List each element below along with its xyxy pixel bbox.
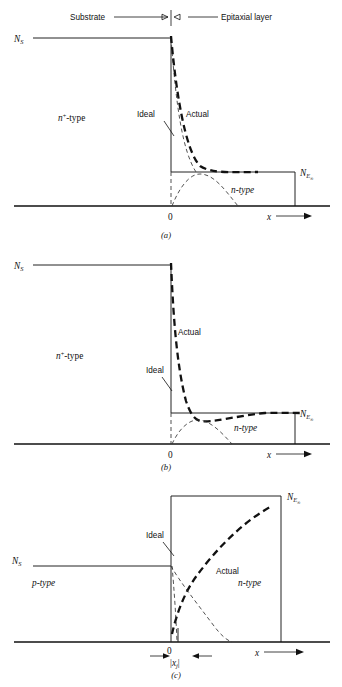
ideal-leader-c bbox=[163, 542, 174, 556]
actual-label-c: Actual bbox=[216, 567, 239, 576]
x-axis-arrow-c: x bbox=[254, 648, 304, 658]
panel-b-tag-row: (b) bbox=[0, 458, 342, 476]
junction-depth-label-c: |xj| bbox=[170, 658, 180, 669]
panel-a: Substrate Epitaxial layer NS bbox=[0, 0, 342, 243]
panel-b: NS n+-type n-type Actual Ideal bbox=[0, 243, 342, 476]
junction-depth-dimension-c: |xj| bbox=[150, 653, 212, 669]
ns-label-c: NS bbox=[11, 556, 22, 567]
ideal-profile-c bbox=[33, 496, 281, 642]
ideal-label-a: Ideal bbox=[137, 110, 155, 119]
origin-label-b: 0 bbox=[168, 450, 173, 460]
ideal-label-b: Ideal bbox=[146, 366, 164, 375]
region-substrate-label-c: p-type bbox=[31, 578, 55, 588]
ne-label-a: NE∞ bbox=[299, 168, 314, 181]
epitaxial-layer-label-a: Epitaxial layer bbox=[221, 13, 272, 22]
region-epi-label-a: n-type bbox=[231, 185, 254, 195]
substrate-label-a: Substrate bbox=[70, 13, 105, 22]
x-axis-arrow-a: x bbox=[266, 212, 312, 222]
svg-text:NS: NS bbox=[13, 34, 24, 45]
x-axis-label-a: x bbox=[266, 212, 272, 222]
actual-label-a: Actual bbox=[186, 110, 209, 119]
x-axis-label-b: x bbox=[266, 450, 272, 460]
panel-c-graphic: NS NE∞ p-type n-type Ideal Actual 0 bbox=[0, 476, 342, 681]
region-epi-label-b: n-type bbox=[234, 423, 257, 433]
actual-label-b: Actual bbox=[178, 328, 201, 337]
panel-b-graphic: NS n+-type n-type Actual Ideal bbox=[0, 243, 342, 458]
autodoping-bump-b bbox=[172, 420, 232, 444]
p-tail-curve-c bbox=[171, 566, 232, 642]
region-substrate-label-a: n+-type bbox=[58, 112, 85, 123]
actual-curve-a bbox=[171, 36, 258, 172]
panel-c: NS NE∞ p-type n-type Ideal Actual 0 bbox=[0, 476, 342, 681]
panel-tag-a: (a) bbox=[161, 230, 171, 240]
region-substrate-label-b: n+-type bbox=[56, 350, 83, 361]
ideal-label-c: Ideal bbox=[146, 531, 164, 540]
panel-a-graphic: Substrate Epitaxial layer NS bbox=[0, 0, 342, 243]
region-epi-label-c: n-type bbox=[238, 578, 261, 588]
panel-tag-c: (c) bbox=[171, 670, 181, 680]
panel-tag-b: (b) bbox=[161, 462, 171, 472]
ns-label-a: NS bbox=[13, 34, 24, 45]
ideal-leader-a bbox=[164, 121, 174, 136]
ns-sub-a: S bbox=[20, 38, 24, 45]
autodoping-bump-a bbox=[172, 174, 238, 206]
doping-profile-figure: Substrate Epitaxial layer NS bbox=[0, 0, 342, 687]
ns-label-b: NS bbox=[13, 261, 24, 272]
origin-label-c: 0 bbox=[167, 646, 172, 656]
ne-label-b: NE∞ bbox=[299, 409, 314, 422]
origin-label-a: 0 bbox=[168, 212, 173, 222]
x-axis-label-c: x bbox=[254, 648, 260, 658]
ne-label-c: NE∞ bbox=[286, 492, 301, 505]
actual-curve-b bbox=[171, 263, 300, 421]
interface-annotation-a: Substrate Epitaxial layer bbox=[70, 10, 272, 26]
